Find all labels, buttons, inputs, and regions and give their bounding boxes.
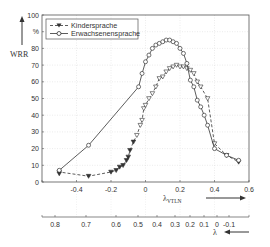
secondary-x-tick-label: 0.8	[50, 221, 60, 228]
circle-marker-icon	[147, 53, 151, 57]
y-tick-label: 20	[31, 145, 39, 152]
y-tick-label: 50	[31, 95, 39, 102]
y-tick-label: %	[33, 28, 39, 35]
secondary-x-tick-label: 0	[215, 221, 219, 228]
y-tick-label: 60	[31, 78, 39, 85]
triangle-marker-icon	[140, 118, 145, 122]
kindersprache-line	[59, 65, 238, 176]
legend: Kindersprache Erwachsenensprache	[46, 19, 140, 39]
x-tick-label: -0.4	[70, 186, 82, 193]
circle-marker-icon	[185, 61, 189, 65]
circle-marker-icon	[87, 143, 91, 147]
erwachsenensprache-line	[59, 40, 238, 170]
secondary-x-tick-label: 0.3	[170, 221, 180, 228]
x-tick-label: -0.2	[105, 186, 117, 193]
secondary-x-axis: 0.80.70.60.50.40.30.20.10-0.1	[42, 215, 249, 228]
triangle-marker-icon	[198, 85, 203, 89]
y-tick-label: 100	[27, 12, 39, 19]
legend-erwachsenensprache: Erwachsenensprache	[71, 29, 140, 38]
triangle-marker-icon	[128, 148, 133, 152]
circle-marker-icon	[144, 60, 148, 64]
circle-marker-icon	[57, 32, 61, 36]
triangle-marker-icon	[205, 97, 210, 101]
secondary-arrowhead-icon	[224, 230, 230, 235]
y-tick-label: 40	[31, 112, 39, 119]
triangle-marker-icon	[150, 92, 155, 96]
circle-marker-icon	[178, 46, 182, 50]
wrr-chart: 01020304050607080%100 -0.4-0.200.20.40.6…	[0, 0, 270, 247]
secondary-x-tick-label: -0.1	[223, 221, 235, 228]
secondary-x-tick-label: 0.5	[133, 221, 143, 228]
secondary-x-tick-label: 0.2	[185, 221, 195, 228]
circle-marker-icon	[213, 147, 217, 151]
secondary-x-axis-label: λ	[213, 228, 217, 237]
circle-marker-icon	[195, 98, 199, 102]
triangle-marker-icon	[164, 70, 169, 74]
y-tick-label: 0	[35, 179, 39, 186]
circle-marker-icon	[202, 113, 206, 117]
circle-marker-icon	[150, 46, 154, 50]
triangle-marker-icon	[138, 123, 143, 127]
circle-marker-icon	[225, 153, 229, 157]
circle-marker-icon	[137, 85, 141, 89]
y-axis-label: WRR	[10, 50, 29, 59]
circle-marker-icon	[188, 78, 192, 82]
triangle-marker-icon	[157, 77, 162, 81]
y-tick-label: 70	[31, 62, 39, 69]
data-series	[57, 38, 241, 178]
triangle-marker-icon	[154, 85, 159, 89]
secondary-x-tick-label: 0.7	[81, 221, 91, 228]
x-tick-label: 0.6	[244, 186, 254, 193]
triangle-marker-icon	[131, 140, 136, 144]
y-axis-ticks: 01020304050607080%100	[27, 12, 44, 186]
y-arrowhead-icon	[20, 16, 25, 22]
secondary-x-tick-label: 0.4	[152, 221, 162, 228]
circle-marker-icon	[206, 123, 210, 127]
circle-marker-icon	[237, 158, 241, 162]
triangle-marker-icon	[192, 72, 197, 76]
x-tick-label: 0.2	[175, 186, 185, 193]
circle-marker-icon	[199, 105, 203, 109]
x-arrowhead-icon	[240, 196, 246, 201]
secondary-x-tick-label: 0.1	[199, 221, 209, 228]
circle-marker-icon	[175, 41, 179, 45]
circle-marker-icon	[140, 71, 144, 75]
circle-marker-icon	[181, 51, 185, 55]
x-tick-label: 0	[144, 186, 148, 193]
y-tick-label: 30	[31, 128, 39, 135]
triangle-marker-icon	[86, 174, 91, 178]
x-axis-label: λVTLN	[163, 194, 182, 204]
circle-marker-icon	[57, 168, 61, 172]
triangle-marker-icon	[135, 133, 140, 137]
circle-marker-icon	[192, 85, 196, 89]
x-tick-label: 0.4	[210, 186, 220, 193]
secondary-x-tick-label: 0.6	[111, 221, 121, 228]
y-tick-label: 10	[31, 162, 39, 169]
y-tick-label: 80	[31, 45, 39, 52]
